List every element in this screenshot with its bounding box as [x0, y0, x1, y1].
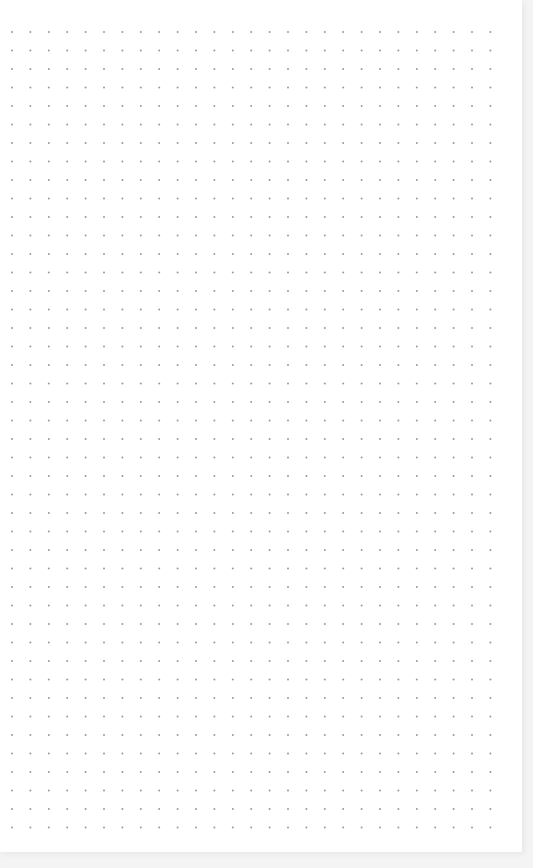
grid-dot	[66, 438, 68, 440]
grid-dot	[103, 50, 105, 52]
grid-dot	[85, 568, 87, 570]
grid-dot	[342, 309, 344, 311]
grid-dot	[489, 679, 491, 681]
grid-dot	[361, 605, 363, 607]
grid-dot	[416, 494, 418, 496]
grid-dot	[121, 161, 123, 163]
grid-dot	[305, 216, 307, 218]
grid-dot	[232, 309, 234, 311]
grid-dot	[48, 364, 50, 366]
grid-dot	[29, 679, 31, 681]
grid-dot	[158, 549, 160, 551]
grid-dot	[269, 309, 271, 311]
grid-dot	[195, 790, 197, 792]
grid-dot	[85, 457, 87, 459]
grid-dot	[48, 272, 50, 274]
grid-dot	[397, 568, 399, 570]
grid-dot	[324, 512, 326, 514]
grid-dot	[287, 790, 289, 792]
grid-dot	[195, 605, 197, 607]
grid-dot	[453, 531, 455, 533]
grid-dot	[177, 235, 179, 237]
grid-dot	[361, 31, 363, 33]
grid-dot	[66, 716, 68, 718]
grid-dot	[434, 623, 436, 625]
grid-dot	[397, 790, 399, 792]
grid-dot	[177, 124, 179, 126]
grid-dot	[121, 383, 123, 385]
grid-dot	[213, 753, 215, 755]
grid-dot	[121, 679, 123, 681]
grid-dot	[158, 383, 160, 385]
grid-dot	[397, 771, 399, 773]
grid-dot	[379, 790, 381, 792]
grid-dot	[85, 753, 87, 755]
grid-dot	[416, 50, 418, 52]
grid-dot	[324, 401, 326, 403]
grid-dot	[489, 235, 491, 237]
grid-dot	[489, 179, 491, 181]
grid-dot	[103, 383, 105, 385]
grid-dot	[48, 105, 50, 107]
grid-dot	[232, 642, 234, 644]
grid-dot	[48, 642, 50, 644]
grid-dot	[434, 512, 436, 514]
grid-dot	[324, 272, 326, 274]
grid-dot	[158, 327, 160, 329]
grid-dot	[66, 272, 68, 274]
grid-dot	[305, 605, 307, 607]
grid-dot	[361, 790, 363, 792]
grid-dot	[158, 605, 160, 607]
grid-dot	[177, 790, 179, 792]
grid-dot	[66, 494, 68, 496]
grid-dot	[29, 494, 31, 496]
grid-dot	[287, 568, 289, 570]
grid-dot	[11, 253, 13, 255]
grid-dot	[11, 124, 13, 126]
grid-dot	[416, 31, 418, 33]
grid-dot	[489, 827, 491, 829]
grid-dot	[103, 771, 105, 773]
grid-dot	[434, 753, 436, 755]
grid-dot	[121, 605, 123, 607]
grid-dot	[324, 679, 326, 681]
grid-dot	[48, 309, 50, 311]
grid-dot	[213, 734, 215, 736]
grid-dot	[397, 124, 399, 126]
grid-dot	[195, 753, 197, 755]
grid-dot	[342, 346, 344, 348]
grid-dot	[158, 179, 160, 181]
grid-dot	[158, 420, 160, 422]
grid-dot	[489, 549, 491, 551]
grid-dot	[232, 531, 234, 533]
grid-dot	[379, 716, 381, 718]
grid-dot	[324, 549, 326, 551]
grid-dot	[471, 549, 473, 551]
grid-dot	[434, 475, 436, 477]
grid-dot	[453, 364, 455, 366]
grid-dot	[305, 31, 307, 33]
grid-dot	[232, 327, 234, 329]
grid-dot	[177, 364, 179, 366]
grid-dot	[213, 346, 215, 348]
grid-dot	[121, 716, 123, 718]
grid-dot	[11, 475, 13, 477]
grid-dot	[471, 827, 473, 829]
grid-dot	[305, 87, 307, 89]
grid-dot	[416, 68, 418, 70]
grid-dot	[85, 401, 87, 403]
grid-dot	[379, 142, 381, 144]
grid-dot	[305, 235, 307, 237]
grid-dot	[140, 87, 142, 89]
grid-dot	[213, 309, 215, 311]
grid-dot	[305, 179, 307, 181]
grid-dot	[453, 68, 455, 70]
grid-dot	[177, 179, 179, 181]
grid-dot	[121, 549, 123, 551]
grid-dot	[177, 808, 179, 810]
grid-dot	[453, 31, 455, 33]
grid-dot	[489, 216, 491, 218]
grid-dot	[11, 568, 13, 570]
grid-dot	[324, 605, 326, 607]
grid-dot	[158, 161, 160, 163]
